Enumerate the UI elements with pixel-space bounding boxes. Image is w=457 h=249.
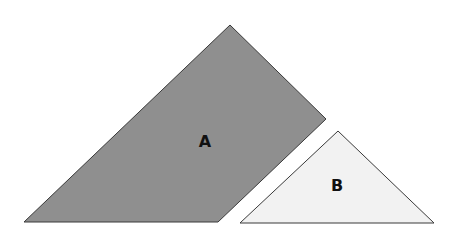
diagram-canvas: A B [0, 0, 457, 249]
shape-a-label: A [199, 132, 212, 151]
shape-b-label: B [331, 176, 343, 195]
